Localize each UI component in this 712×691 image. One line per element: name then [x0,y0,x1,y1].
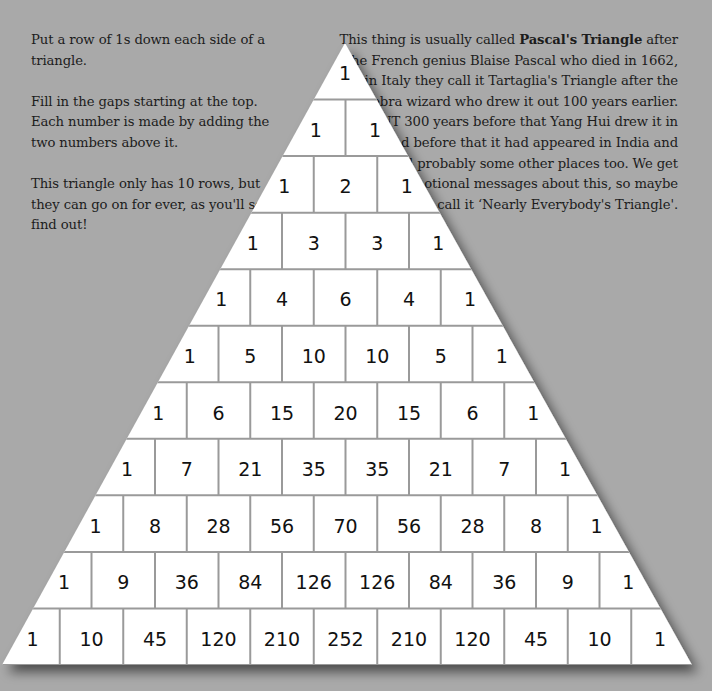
triangle-cell-value: 1 [401,175,413,197]
triangle-cell-value: 252 [327,628,363,650]
triangle-cell-value: 35 [302,458,326,480]
triangle-cell-value: 6 [466,402,478,424]
triangle-cell-value: 84 [238,571,262,593]
triangle-cell-value: 5 [244,345,256,367]
triangle-cell-value: 36 [492,571,516,593]
triangle-cell-value: 126 [359,571,395,593]
triangle-cell-value: 1 [527,402,539,424]
triangle-cell-value: 1 [58,571,70,593]
triangle-cell-value: 1 [432,232,444,254]
triangle-cell-value: 210 [391,628,427,650]
triangle-cell-value: 1 [310,119,322,141]
triangle-cell-value: 56 [397,515,421,537]
triangle-cell-value: 1 [559,458,571,480]
triangle-cell-value: 120 [200,628,236,650]
triangle-cell-value: 7 [181,458,193,480]
triangle-cell-value: 3 [371,232,383,254]
triangle-cell-value: 6 [212,402,224,424]
triangle-cell-value: 10 [79,628,103,650]
triangle-cell-value: 3 [308,232,320,254]
triangle-cell-value: 1 [247,232,259,254]
triangle-cell-value: 10 [365,345,389,367]
triangle-cell-value: 8 [149,515,161,537]
triangle-cell-value: 1 [89,515,101,537]
triangle-cell-value: 21 [238,458,262,480]
triangle-cell-value: 1 [339,62,351,84]
triangle-cell-value: 36 [175,571,199,593]
triangle-cell-value: 1 [496,345,508,367]
triangle-cell-value: 10 [587,628,611,650]
triangle-cell-value: 210 [264,628,300,650]
triangle-cell-value: 4 [403,288,415,310]
triangle-cell-value: 56 [270,515,294,537]
triangle-cell-value: 5 [435,345,447,367]
triangle-cell-value: 45 [524,628,548,650]
triangle-cell-value: 1 [654,628,666,650]
triangle-cell-value: 45 [143,628,167,650]
triangle-cell-value: 1 [26,628,38,650]
triangle-cell-value: 10 [302,345,326,367]
triangle-cell-value: 2 [339,175,351,197]
triangle-cell-value: 15 [397,402,421,424]
triangle-cell-value: 4 [276,288,288,310]
triangle-cell-value: 70 [333,515,357,537]
triangle-cell-value: 84 [429,571,453,593]
triangle-cell-value: 120 [454,628,490,650]
triangle-cell-value: 1 [278,175,290,197]
triangle-shape [2,43,692,665]
triangle-cell-value: 1 [121,458,133,480]
triangle-cell-value: 7 [498,458,510,480]
triangle-cell-value: 8 [530,515,542,537]
triangle-cell-value: 35 [365,458,389,480]
triangle-cell-value: 9 [117,571,129,593]
triangle-cell-value: 20 [333,402,357,424]
triangle-cell-value: 15 [270,402,294,424]
triangle-cell-value: 1 [369,119,381,141]
triangle-cell-value: 126 [296,571,332,593]
triangle-cell-value: 21 [429,458,453,480]
triangle-cell-value: 1 [184,345,196,367]
triangle-cell-value: 6 [339,288,351,310]
triangle-cell-value: 1 [591,515,603,537]
pascals-triangle: 1111211331146411510105116152015611721353… [0,0,712,691]
triangle-cell-value: 1 [464,288,476,310]
triangle-cell-value: 28 [206,515,230,537]
triangle-cell-value: 28 [460,515,484,537]
triangle-cell-value: 1 [152,402,164,424]
triangle-cell-value: 1 [622,571,634,593]
triangle-cell-value: 1 [215,288,227,310]
triangle-cell-value: 9 [562,571,574,593]
